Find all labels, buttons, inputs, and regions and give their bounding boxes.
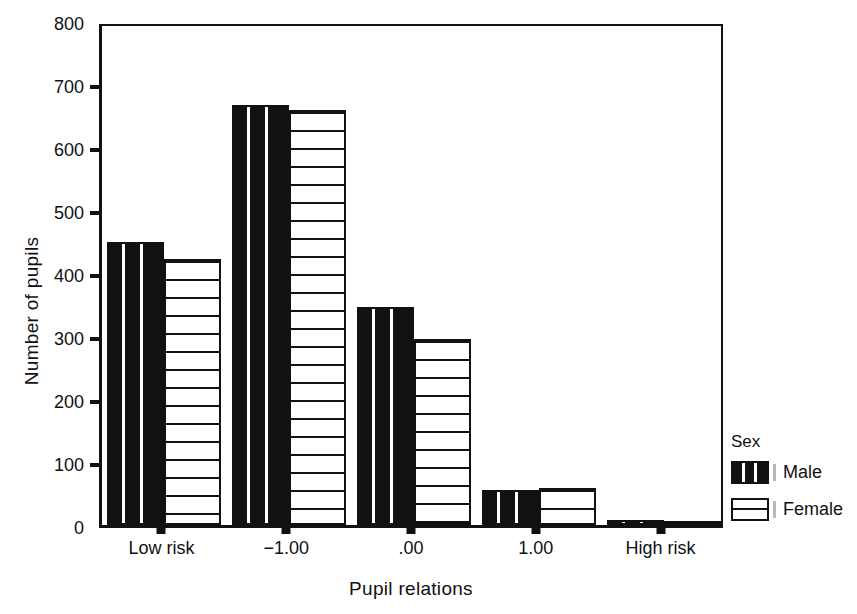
y-tick-label: 700	[54, 77, 84, 98]
legend-swatch-male-icon	[731, 461, 769, 484]
y-tick-label: 200	[54, 392, 84, 413]
x-tick-label: 1.00	[518, 538, 553, 559]
bar-group	[107, 26, 221, 525]
bar-male[interactable]	[107, 242, 164, 525]
x-tick-mark	[157, 527, 166, 534]
bar-chart-figure: Number of pupils 01002003004005006007008…	[0, 0, 857, 614]
legend-label-female: Female	[783, 499, 843, 520]
legend-swatch-female-icon	[731, 498, 769, 521]
y-tick-mark	[90, 463, 99, 467]
bar-group	[607, 26, 721, 525]
bars-layer	[102, 26, 721, 525]
y-tick-label: 600	[54, 140, 84, 161]
y-tick-mark	[90, 148, 99, 152]
legend-item-male[interactable]: Male	[731, 461, 853, 484]
y-axis-ticks: 0100200300400500600700800	[0, 0, 92, 614]
y-tick-label: 100	[54, 455, 84, 476]
x-tick-label: −1.00	[263, 538, 309, 559]
plot-area	[99, 24, 723, 528]
bar-group	[232, 26, 346, 525]
y-tick-mark	[90, 85, 99, 89]
legend: Sex Male Female	[731, 432, 853, 535]
y-tick-label: 400	[54, 266, 84, 287]
x-tick-label: Low risk	[128, 538, 194, 559]
y-tick-label: 0	[74, 518, 84, 539]
x-tick-mark	[656, 527, 665, 534]
bar-female[interactable]	[664, 521, 721, 525]
bar-group	[357, 26, 471, 525]
legend-tick-icon	[773, 464, 776, 481]
y-tick-mark	[90, 211, 99, 215]
legend-tick-icon	[773, 501, 776, 518]
bar-female[interactable]	[414, 339, 471, 525]
y-tick-label: 800	[54, 14, 84, 35]
bar-group	[482, 26, 596, 525]
y-tick-label: 300	[54, 329, 84, 350]
bar-female[interactable]	[289, 110, 346, 525]
y-tick-mark	[90, 400, 99, 404]
y-tick-label: 500	[54, 203, 84, 224]
bar-female[interactable]	[539, 488, 596, 525]
bar-male[interactable]	[357, 307, 414, 525]
x-tick-mark	[531, 527, 540, 534]
bar-female[interactable]	[164, 259, 221, 525]
bar-male[interactable]	[482, 490, 539, 525]
legend-title: Sex	[731, 432, 853, 452]
x-tick-mark	[282, 527, 291, 534]
bar-male[interactable]	[232, 105, 289, 525]
x-axis-title: Pupil relations	[99, 578, 723, 600]
y-tick-mark	[90, 337, 99, 341]
x-tick-label: .00	[398, 538, 423, 559]
x-tick-mark	[407, 527, 416, 534]
legend-label-male: Male	[783, 462, 822, 483]
bar-male[interactable]	[607, 520, 664, 525]
x-tick-label: High risk	[626, 538, 696, 559]
legend-item-female[interactable]: Female	[731, 498, 853, 521]
y-tick-mark	[90, 274, 99, 278]
